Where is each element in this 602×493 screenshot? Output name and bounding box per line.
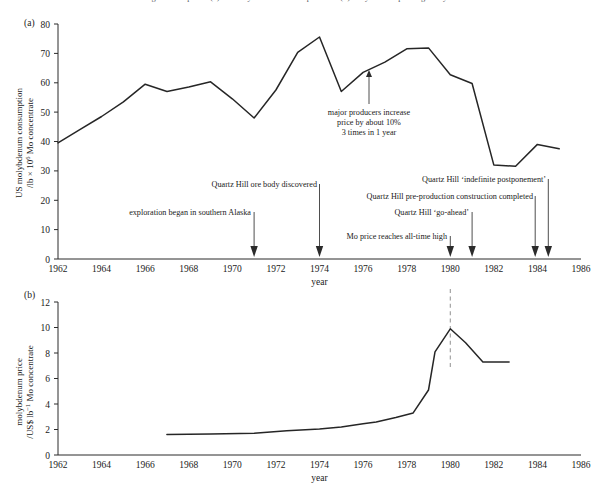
- panel-b-xtick-1972: 1972: [266, 460, 285, 470]
- panel-a-y-ticks: 80 70 60 50 40 30 20 10 0: [41, 20, 59, 265]
- panel-a-xtick-1972: 1972: [266, 264, 285, 274]
- panel-a-ytick-80: 80: [41, 20, 51, 30]
- annotation-indefinite-postponement-label: Quartz Hill ‘indefinite postponement’: [422, 175, 546, 184]
- annotation-ore-body-discovered-label: Quartz Hill ore body discovered: [212, 180, 318, 189]
- panel-b-xtick-1978: 1978: [397, 460, 416, 470]
- annotation-all-time-high: Mo price reaches all-time high: [347, 232, 455, 257]
- annotation-major-producers-line2: price by about 10%: [337, 118, 401, 127]
- panel-b-xtick-1970: 1970: [223, 460, 242, 470]
- panel-b-xtick-1982: 1982: [484, 460, 503, 470]
- panel-a-xtick-1976: 1976: [354, 264, 373, 274]
- panel-b-xtick-1962: 1962: [49, 460, 68, 470]
- panel-b-xtick-1976: 1976: [354, 460, 373, 470]
- panel-b-ytick-2: 2: [45, 425, 50, 435]
- panel-b-ytick-8: 8: [45, 349, 50, 359]
- panel-b-xtick-1968: 1968: [179, 460, 198, 470]
- annotation-preproduction-completed-label: Quartz Hill pre-production construction …: [367, 192, 533, 201]
- panel-b-xtick-1966: 1966: [136, 460, 155, 470]
- panel-a-x-ticks: 1962 1964 1966 1968 1970 1972 1974 1976 …: [49, 264, 591, 274]
- panel-b-y-axis-title-line2: /US$ lb−1 Mo concentrate: [24, 345, 35, 438]
- panel-b-ytick-6: 6: [45, 374, 50, 384]
- panel-a-xtick-1968: 1968: [179, 264, 198, 274]
- panel-b-ytick-4: 4: [45, 400, 50, 410]
- panel-b-data-line: [167, 329, 509, 435]
- panel-a-xtick-1978: 1978: [397, 264, 416, 274]
- panel-a-label: (a): [24, 18, 35, 29]
- annotation-all-time-high-label: Mo price reaches all-time high: [347, 232, 448, 241]
- figure-root: Figure 5 Graphs of (a) US molybdenum con…: [0, 0, 602, 493]
- two-panel-line-chart: (a) US molybdenum consumption /lb × 106 …: [0, 0, 602, 493]
- panel-b: (b) molybdenum price /US$ lb−1 Mo concen…: [14, 290, 591, 483]
- panel-a-xtick-1966: 1966: [136, 264, 155, 274]
- panel-a-xtick-1984: 1984: [528, 264, 547, 274]
- panel-a-xtick-1970: 1970: [223, 264, 242, 274]
- panel-a: (a) US molybdenum consumption /lb × 106 …: [14, 18, 591, 287]
- panel-a-ytick-50: 50: [41, 108, 51, 118]
- panel-b-xtick-1980: 1980: [441, 460, 460, 470]
- annotation-major-producers-line1: major producers increase: [328, 108, 411, 117]
- panel-b-label: (b): [24, 290, 35, 301]
- panel-a-y-axis-title: US molybdenum consumption /lb × 106 Mo c…: [14, 88, 35, 198]
- panel-a-ytick-70: 70: [41, 49, 51, 59]
- panel-a-x-axis-title: year: [311, 277, 328, 287]
- annotation-go-ahead-label: Quartz Hill ‘go-ahead’: [394, 208, 469, 217]
- panel-b-xtick-1986: 1986: [572, 460, 591, 470]
- panel-b-x-ticks: 1962 1964 1966 1968 1970 1972 1974 1976 …: [49, 460, 591, 470]
- annotation-major-producers-line3: 3 times in 1 year: [342, 128, 397, 137]
- panel-b-xtick-1974: 1974: [310, 460, 329, 470]
- panel-a-xtick-1982: 1982: [484, 264, 503, 274]
- panel-a-ytick-40: 40: [41, 137, 51, 147]
- panel-b-y-axis-title-line1: molybdenum price: [14, 358, 24, 426]
- panel-a-xtick-1980: 1980: [441, 264, 460, 274]
- panel-b-x-axis-title: year: [311, 473, 328, 483]
- panel-a-xtick-1974: 1974: [310, 264, 329, 274]
- panel-b-xtick-1984: 1984: [528, 460, 547, 470]
- annotation-exploration-began: exploration began in southern Alaska: [129, 208, 258, 257]
- panel-a-xtick-1986: 1986: [572, 264, 591, 274]
- panel-a-ytick-60: 60: [41, 78, 51, 88]
- panel-a-ytick-20: 20: [41, 196, 51, 206]
- panel-a-xtick-1962: 1962: [49, 264, 68, 274]
- panel-b-ytick-12: 12: [41, 298, 51, 308]
- annotation-major-producers: major producers increase price by about …: [328, 70, 411, 137]
- panel-b-xtick-1964: 1964: [92, 460, 111, 470]
- panel-a-ytick-30: 30: [41, 166, 51, 176]
- panel-a-ytick-10: 10: [41, 225, 51, 235]
- panel-a-y-axis-title-line2: /lb × 106 Mo concentrate: [24, 98, 35, 188]
- panel-a-data-line: [58, 37, 559, 166]
- panel-b-y-axis-title: molybdenum price /US$ lb−1 Mo concentrat…: [14, 345, 35, 438]
- panel-a-y-axis-title-line1: US molybdenum consumption: [14, 88, 24, 198]
- panel-a-xtick-1964: 1964: [92, 264, 111, 274]
- annotation-exploration-began-label: exploration began in southern Alaska: [129, 208, 251, 217]
- panel-b-ytick-10: 10: [41, 323, 51, 333]
- annotation-ore-body-discovered: Quartz Hill ore body discovered: [212, 180, 324, 257]
- panel-b-y-ticks: 12 10 8 6 4 2 0: [41, 298, 59, 461]
